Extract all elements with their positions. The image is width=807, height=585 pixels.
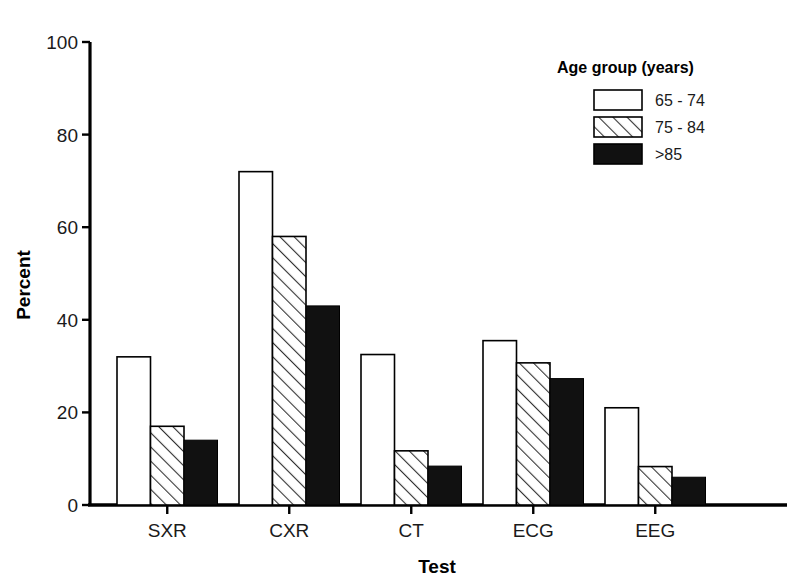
legend-label: 65 - 74 xyxy=(655,92,705,109)
bar xyxy=(184,440,218,505)
x-tick-label-sxr: SXR xyxy=(148,520,187,541)
white-swatch xyxy=(594,90,642,110)
x-tick-label-ct: CT xyxy=(399,520,425,541)
y-tick-label: 80 xyxy=(57,125,78,146)
y-tick-label: 0 xyxy=(67,495,78,516)
bar xyxy=(361,355,395,505)
legend-title: Age group (years) xyxy=(557,59,694,76)
bar xyxy=(395,451,429,505)
bars-layer xyxy=(117,172,706,505)
legend-label: 75 - 84 xyxy=(655,119,705,136)
x-tick-label-cxr: CXR xyxy=(269,520,309,541)
bar xyxy=(672,477,706,505)
bar xyxy=(639,467,673,505)
bar-chart-figure: 020406080100 SXRCXRCTECGEEG Percent Test… xyxy=(0,0,807,585)
black-swatch xyxy=(594,144,642,164)
bar xyxy=(605,408,639,505)
bar xyxy=(117,357,151,505)
y-axis-tick-labels: 020406080100 xyxy=(46,32,78,516)
x-axis-tick-labels: SXRCXRCTECGEEG xyxy=(148,520,676,541)
x-axis-title: Test xyxy=(418,556,456,577)
bar xyxy=(306,306,340,505)
y-axis-title: Percent xyxy=(13,249,34,319)
legend: Age group (years) 65 - 7475 - 84>85 xyxy=(557,59,705,164)
bar xyxy=(428,466,462,505)
y-tick-label: 100 xyxy=(46,32,78,53)
hatched-swatch xyxy=(594,117,642,137)
x-tick-label-eeg: EEG xyxy=(635,520,675,541)
y-tick-label: 40 xyxy=(57,310,78,331)
y-tick-label: 60 xyxy=(57,217,78,238)
y-tick-label: 20 xyxy=(57,402,78,423)
bar xyxy=(550,379,584,505)
legend-items: 65 - 7475 - 84>85 xyxy=(594,90,705,164)
bar xyxy=(483,341,517,505)
chart-canvas: 020406080100 SXRCXRCTECGEEG Percent Test… xyxy=(0,0,807,585)
legend-label: >85 xyxy=(655,146,682,163)
bar xyxy=(517,363,551,505)
bar xyxy=(239,172,273,505)
bar xyxy=(151,426,185,505)
bar xyxy=(273,236,307,505)
x-tick-label-ecg: ECG xyxy=(513,520,554,541)
